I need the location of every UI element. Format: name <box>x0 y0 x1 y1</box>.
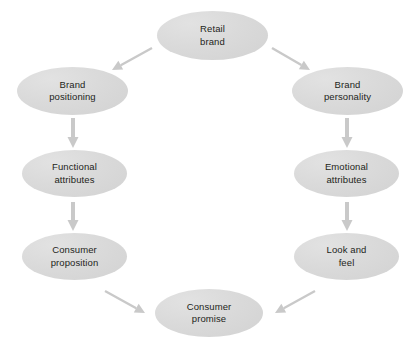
arrow-head <box>342 137 353 148</box>
arrow-emotional-to-look-and-feel <box>342 202 353 231</box>
node-label-emotional-attributes: Emotional attributes <box>319 161 374 186</box>
node-consumer-proposition[interactable]: Consumer proposition <box>22 233 127 280</box>
arrow-retail-brand-to-brand-positioning <box>112 48 152 70</box>
arrow-head <box>68 220 79 231</box>
diagram-canvas: Retail brandBrand positioningBrand perso… <box>0 0 416 348</box>
arrow-brand-positioning-to-functional <box>68 118 79 148</box>
arrow-head <box>112 61 123 70</box>
node-consumer-promise[interactable]: Consumer promise <box>155 289 263 337</box>
node-functional-attributes[interactable]: Functional attributes <box>22 150 127 197</box>
node-label-consumer-proposition: Consumer proposition <box>45 244 105 269</box>
node-label-brand-positioning: Brand positioning <box>43 79 102 104</box>
arrow-head <box>342 220 353 231</box>
node-brand-personality[interactable]: Brand personality <box>292 67 403 115</box>
arrow-consumer-proposition-to-promise <box>105 291 145 313</box>
node-brand-positioning[interactable]: Brand positioning <box>17 67 128 115</box>
arrow-shaft <box>105 291 136 308</box>
arrow-functional-to-consumer-proposition <box>68 202 79 231</box>
arrow-shaft <box>272 48 301 65</box>
node-label-retail-brand: Retail brand <box>194 23 231 48</box>
node-retail-brand[interactable]: Retail brand <box>157 11 268 60</box>
arrow-head <box>275 304 286 313</box>
arrow-head <box>134 304 145 313</box>
node-emotional-attributes[interactable]: Emotional attributes <box>294 150 399 197</box>
arrow-brand-personality-to-emotional <box>342 118 353 148</box>
arrow-retail-brand-to-brand-personality <box>272 48 310 70</box>
node-label-consumer-promise: Consumer promise <box>181 301 238 326</box>
node-label-functional-attributes: Functional attributes <box>46 161 103 186</box>
arrow-look-and-feel-to-promise <box>275 291 315 313</box>
node-label-look-and-feel: Look and feel <box>321 244 373 269</box>
arrow-head <box>68 137 79 148</box>
node-look-and-feel[interactable]: Look and feel <box>294 233 399 280</box>
arrow-head <box>299 61 310 70</box>
node-label-brand-personality: Brand personality <box>318 79 377 104</box>
arrow-shaft <box>284 291 315 308</box>
arrow-shaft <box>121 48 152 65</box>
